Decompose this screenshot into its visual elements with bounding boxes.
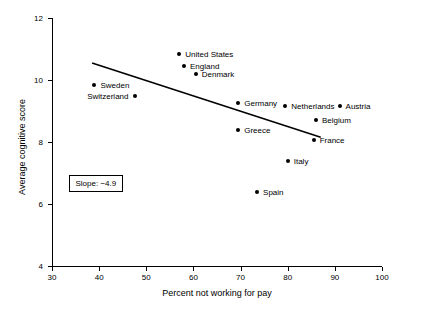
data-point-label: Netherlands <box>291 102 334 111</box>
x-tick-label: 60 <box>189 273 198 282</box>
x-tick-label: 40 <box>95 273 104 282</box>
data-point-label: United States <box>185 49 233 58</box>
data-point <box>312 138 316 142</box>
x-tick-label: 100 <box>375 273 388 282</box>
data-point-label: Sweden <box>100 80 129 89</box>
slope-annotation: Slope: −4.9 <box>69 175 124 192</box>
x-axis-line <box>52 266 382 267</box>
data-point <box>255 190 259 194</box>
data-point-label: Italy <box>294 156 309 165</box>
data-point <box>314 118 318 122</box>
y-tick-label: 4 <box>39 262 43 271</box>
data-point <box>177 52 181 56</box>
x-tick-label: 90 <box>330 273 339 282</box>
y-tick-mark <box>48 204 52 205</box>
y-tick-mark <box>48 142 52 143</box>
y-tick-label: 8 <box>39 138 43 147</box>
x-tick-mark <box>288 267 289 271</box>
data-point-label: Germany <box>244 99 277 108</box>
x-tick-mark <box>241 267 242 271</box>
x-tick-mark <box>382 267 383 271</box>
x-tick-mark <box>146 267 147 271</box>
x-tick-mark <box>335 267 336 271</box>
data-point <box>182 64 186 68</box>
data-point <box>338 104 342 108</box>
data-point-label: France <box>320 136 345 145</box>
data-point <box>92 83 96 87</box>
y-tick-label: 12 <box>34 14 43 23</box>
plot-area: 30405060708090100 4681012 United StatesE… <box>52 18 382 266</box>
x-tick-label: 50 <box>142 273 151 282</box>
x-tick-label: 30 <box>48 273 57 282</box>
data-point-label: Switzerland <box>87 91 128 100</box>
data-point <box>194 72 198 76</box>
y-tick-mark <box>48 18 52 19</box>
data-point-label: Denmark <box>202 69 234 78</box>
data-point-label: Greece <box>244 125 270 134</box>
data-point-label: Belgium <box>322 116 351 125</box>
x-axis-title: Percent not working for pay <box>52 288 382 298</box>
scatter-chart: 30405060708090100 4681012 United StatesE… <box>0 0 422 314</box>
y-tick-mark <box>48 80 52 81</box>
data-point <box>236 101 240 105</box>
data-point <box>283 104 287 108</box>
data-point <box>236 128 240 132</box>
y-tick-label: 6 <box>39 200 43 209</box>
x-tick-mark <box>193 267 194 271</box>
data-point-label: Spain <box>263 187 283 196</box>
data-point-label: Austria <box>346 102 371 111</box>
y-axis-title: Average cognitive score <box>17 77 27 217</box>
x-tick-mark <box>99 267 100 271</box>
x-tick-label: 70 <box>236 273 245 282</box>
y-tick-label: 10 <box>34 76 43 85</box>
x-tick-label: 80 <box>283 273 292 282</box>
y-tick-mark <box>48 266 52 267</box>
x-tick-mark <box>52 267 53 271</box>
data-point <box>133 94 137 98</box>
data-point <box>286 159 290 163</box>
